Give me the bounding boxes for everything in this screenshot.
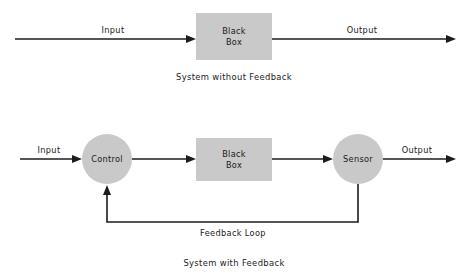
control-to-box-arrow-head [186, 155, 196, 163]
top-system-caption: System without Feedback [176, 72, 292, 82]
feedback-loop-label: Feedback Loop [200, 228, 266, 238]
sensor-label: Sensor [343, 154, 373, 165]
bottom-input-label: Input [38, 145, 61, 155]
top-output-arrow-head [446, 35, 456, 43]
top-output-label: Output [347, 25, 378, 35]
top-black-box-label-line2: Box [226, 37, 242, 48]
bottom-output-arrow-head [446, 155, 456, 163]
feedback-loop-arrow-head [103, 185, 111, 195]
control-label: Control [91, 154, 123, 165]
top-input-arrow-head [186, 35, 196, 43]
top-black-box-label-line1: Black [222, 26, 246, 37]
bottom-input-arrow-head [72, 155, 82, 163]
feedback-loop-path [107, 184, 358, 222]
bottom-black-box-label-line1: Black [222, 149, 246, 160]
bottom-system-caption: System with Feedback [183, 258, 284, 268]
bottom-black-box-label-line2: Box [226, 160, 242, 171]
block-diagram: Input Output Black Box System without Fe… [0, 0, 468, 272]
bottom-output-label: Output [402, 145, 433, 155]
box-to-sensor-arrow-head [323, 155, 333, 163]
top-input-label: Input [102, 25, 125, 35]
